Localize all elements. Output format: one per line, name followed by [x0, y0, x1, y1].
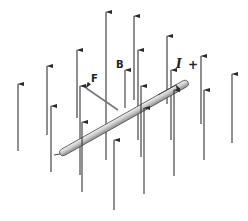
force-label-f: F: [91, 74, 98, 84]
polarity-plus-sign: +: [188, 59, 198, 71]
diagram-stage: B F I +: [0, 0, 248, 221]
wire-lead: [54, 154, 60, 155]
magnetic-field-diagram: [0, 0, 248, 221]
field-label-b: B: [116, 60, 124, 70]
wire: [54, 79, 190, 157]
force-and-field-vectors: [86, 70, 176, 110]
force-arrow-icon: [86, 88, 118, 110]
current-label-i: I: [176, 58, 182, 70]
current-carrying-wire: [58, 79, 189, 157]
